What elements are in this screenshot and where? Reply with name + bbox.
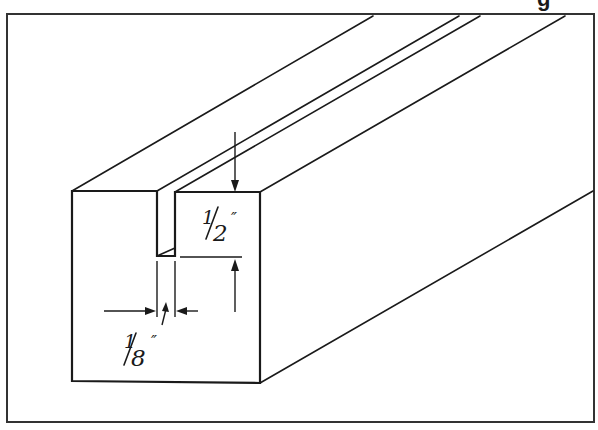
slot-width-label: 1 8 ″ <box>124 330 157 371</box>
depth-label-inch-mark: ″ <box>231 209 237 228</box>
slot-width-dimension: 1 8 ″ <box>104 261 198 371</box>
width-arrow-left-icon <box>176 307 187 315</box>
slotted-strip-drawing <box>72 16 593 383</box>
depth-arrow-up-icon <box>231 259 239 271</box>
depth-arrow-down-icon <box>231 180 239 192</box>
diagram-canvas: g 1 <box>0 0 598 430</box>
slot-floor-edge <box>157 248 175 256</box>
width-label-inch-mark: ″ <box>151 332 157 351</box>
slot-depth-label: 1 2 ″ <box>202 206 237 246</box>
cropped-caption-glyph: g <box>537 0 550 11</box>
width-leader-arrow-icon <box>162 302 169 312</box>
bottom-right-long-edge <box>260 191 593 383</box>
width-arrow-right-icon <box>145 307 156 315</box>
depth-label-denominator: 2 <box>212 220 228 246</box>
figure-frame <box>7 14 594 422</box>
width-label-denominator: 8 <box>131 345 146 371</box>
